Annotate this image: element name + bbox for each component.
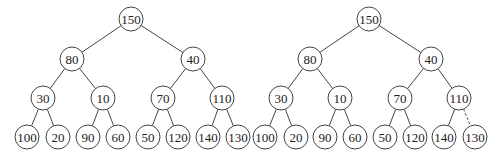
tree-edge — [82, 26, 121, 53]
tree-edge — [288, 69, 303, 89]
node-value: 130 — [465, 130, 485, 145]
tree-node: 100 — [15, 125, 39, 149]
tree-edge — [92, 109, 98, 126]
tree-edge — [438, 69, 452, 89]
tree-node: 130 — [463, 125, 487, 149]
tree-node: 30 — [269, 86, 293, 110]
right-tree: 150804030107011010020906050120140130 — [253, 7, 487, 149]
tree-edge — [200, 69, 215, 89]
node-value: 50 — [379, 130, 392, 145]
tree-edge — [50, 69, 65, 89]
tree-edge — [285, 109, 291, 126]
tree-edge — [317, 69, 332, 89]
tree-node: 20 — [284, 125, 308, 149]
tree-edge — [448, 109, 454, 126]
tree-node: 110 — [210, 86, 234, 110]
tree-edge — [344, 109, 350, 126]
node-value: 70 — [157, 91, 170, 106]
node-value: 100 — [17, 130, 37, 145]
tree-edge — [408, 68, 424, 88]
tree-node: 90 — [76, 125, 100, 149]
tree-edge — [379, 26, 421, 53]
tree-node: 70 — [388, 86, 412, 110]
tree-node: 40 — [419, 47, 443, 71]
tree-node: 120 — [166, 125, 190, 149]
tree-node: 30 — [31, 86, 55, 110]
left-tree-edges — [32, 26, 234, 126]
tree-node: 150 — [357, 7, 381, 31]
tree-edge — [167, 109, 173, 126]
tree-node: 150 — [119, 7, 143, 31]
tree-node: 40 — [181, 47, 205, 71]
tree-node: 50 — [373, 125, 397, 149]
tree-node: 140 — [196, 125, 220, 149]
dashed-edge — [464, 109, 471, 126]
node-value: 10 — [334, 91, 347, 106]
node-value: 10 — [97, 91, 110, 106]
tree-node: 140 — [432, 125, 456, 149]
node-value: 120 — [168, 130, 188, 145]
tree-edge — [152, 109, 158, 126]
binary-tree-diagram: 1508040301070110100209060501201401301508… — [0, 0, 501, 162]
right-tree-edges — [270, 26, 471, 126]
node-value: 80 — [66, 52, 79, 67]
tree-edge — [32, 109, 39, 126]
node-value: 110 — [212, 91, 231, 106]
tree-node: 10 — [91, 86, 115, 110]
tree-node: 70 — [151, 86, 175, 110]
node-value: 40 — [187, 52, 200, 67]
tree-edge — [270, 109, 277, 126]
node-value: 30 — [37, 91, 50, 106]
node-value: 30 — [275, 91, 288, 106]
node-value: 90 — [82, 130, 95, 145]
tree-edge — [47, 109, 53, 126]
tree-node: 120 — [403, 125, 427, 149]
node-value: 150 — [121, 12, 141, 27]
node-value: 70 — [394, 91, 407, 106]
node-value: 20 — [290, 130, 303, 145]
tree-node: 90 — [313, 125, 337, 149]
node-value: 110 — [449, 91, 468, 106]
tree-node: 60 — [343, 125, 367, 149]
tree-edge — [170, 69, 185, 89]
tree-edge — [227, 109, 234, 126]
tree-edge — [141, 26, 183, 53]
node-value: 150 — [359, 12, 379, 27]
node-value: 130 — [228, 130, 248, 145]
node-value: 60 — [349, 130, 362, 145]
tree-edge — [389, 109, 395, 126]
tree-node: 100 — [253, 125, 277, 149]
tree-edge — [329, 109, 335, 126]
node-value: 50 — [142, 130, 155, 145]
tree-edge — [80, 68, 96, 88]
tree-node: 10 — [328, 86, 352, 110]
tree-edge — [212, 109, 218, 125]
node-value: 140 — [198, 130, 218, 145]
node-value: 100 — [255, 130, 275, 145]
tree-node: 50 — [136, 125, 160, 149]
tree-node: 80 — [298, 47, 322, 71]
tree-edge — [404, 109, 410, 126]
node-value: 60 — [112, 130, 125, 145]
node-value: 120 — [405, 130, 425, 145]
tree-node: 80 — [60, 47, 84, 71]
node-value: 20 — [52, 130, 65, 145]
node-value: 140 — [434, 130, 454, 145]
node-value: 40 — [425, 52, 438, 67]
tree-node: 130 — [226, 125, 250, 149]
tree-node: 20 — [46, 125, 70, 149]
node-value: 80 — [304, 52, 317, 67]
node-value: 90 — [319, 130, 332, 145]
tree-edge — [320, 26, 359, 53]
left-tree: 150804030107011010020906050120140130 — [15, 7, 250, 149]
tree-node: 60 — [106, 125, 130, 149]
tree-edge — [107, 109, 113, 126]
edges-layer — [32, 26, 471, 126]
tree-node: 110 — [447, 86, 471, 110]
